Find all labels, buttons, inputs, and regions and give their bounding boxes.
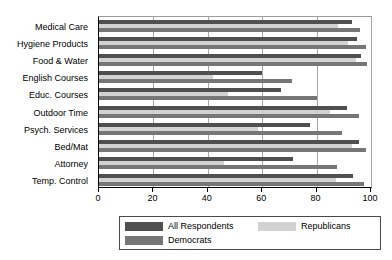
bar <box>99 45 366 49</box>
legend-swatch-democrats <box>125 236 163 245</box>
y-axis-label: Hygiene Products <box>0 39 88 49</box>
legend-entry-republicans: Republicans <box>258 221 351 231</box>
x-axis-tick <box>370 188 371 192</box>
y-axis-label: Medical Care <box>0 22 88 32</box>
y-axis-label: Bed/Mat <box>0 142 88 152</box>
x-axis-tick-label: 80 <box>311 193 321 203</box>
legend-label-republicans: Republicans <box>301 221 351 231</box>
bar <box>99 182 364 186</box>
bar <box>99 96 317 100</box>
x-axis-tick-label: 40 <box>202 193 212 203</box>
plot-area <box>98 16 372 188</box>
y-axis-label: Psych. Services <box>0 125 88 135</box>
legend-entry-democrats: Democrats <box>125 235 212 245</box>
legend-swatch-all-respondents <box>125 222 163 231</box>
bars-layer <box>99 17 371 187</box>
bar <box>99 148 366 152</box>
x-axis: 020406080100 <box>98 188 372 210</box>
bar <box>99 131 342 135</box>
legend-entry-all-respondents: All Respondents <box>125 221 234 231</box>
x-axis-tick <box>261 188 262 192</box>
x-axis-tick-label: 100 <box>362 193 377 203</box>
gridline <box>371 17 372 187</box>
y-axis-category-labels: Medical CareHygiene ProductsFood & Water… <box>0 18 92 186</box>
legend-label-all-respondents: All Respondents <box>168 221 234 231</box>
y-axis-label: Temp. Control <box>0 176 88 186</box>
x-axis-tick-label: 20 <box>147 193 157 203</box>
x-axis-tick <box>207 188 208 192</box>
x-axis-tick-label: 0 <box>95 193 100 203</box>
legend-swatch-republicans <box>258 222 296 231</box>
chart-legend: All Respondents Republicans Democrats <box>119 216 381 250</box>
y-axis-label: Outdoor Time <box>0 108 88 118</box>
x-axis-tick-label: 60 <box>256 193 266 203</box>
bar <box>99 79 292 83</box>
y-axis-label: Food & Water <box>0 56 88 66</box>
x-axis-tick <box>316 188 317 192</box>
bar <box>99 28 360 32</box>
bar <box>99 114 359 118</box>
bar-chart: Medical CareHygiene ProductsFood & Water… <box>0 0 392 260</box>
legend-label-democrats: Democrats <box>168 235 212 245</box>
y-axis-label: Attorney <box>0 159 88 169</box>
y-axis-label: English Courses <box>0 73 88 83</box>
bar <box>99 165 337 169</box>
bar <box>99 62 367 66</box>
x-axis-tick <box>98 188 99 192</box>
x-axis-tick <box>152 188 153 192</box>
y-axis-label: Educ. Courses <box>0 90 88 100</box>
